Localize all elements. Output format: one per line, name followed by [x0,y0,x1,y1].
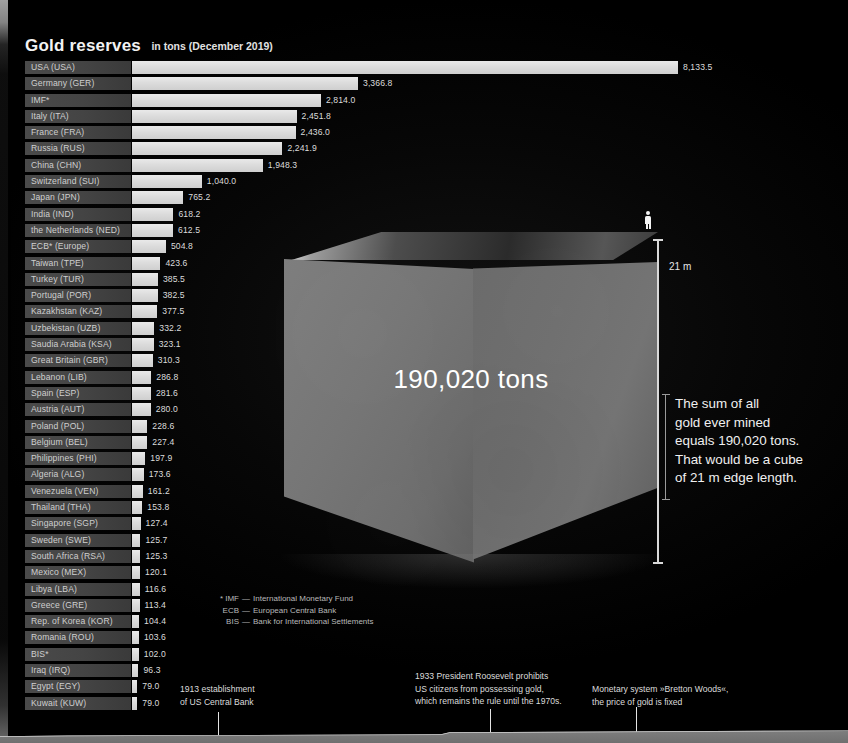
timeline-event-1-line-1: 1913 establishment [180,683,255,696]
bar-row-value: 153.8 [147,501,169,514]
bar-row-fill [132,94,321,107]
bar-row-label: Switzerland (SUI) [25,175,131,188]
bar-row: USA (USA)8,133.5 [25,61,725,74]
cube-right-face [473,262,658,589]
bar-row-label: ECB* (Europe) [25,240,131,253]
bar-row-fill [132,664,138,677]
abbreviation-dash: — [239,616,253,628]
bar-row-fill [132,387,151,400]
bar-row-label: Libya (LBA) [25,583,131,596]
bar-row-label: Lebanon (LIB) [25,371,131,384]
timeline-event-2-line-1: 1933 President Roosevelt prohibits [415,670,562,683]
statement-line-2: gold ever mined [675,414,841,433]
bar-row-value: 8,133.5 [683,61,712,74]
bar-row-fill [132,615,139,628]
bar-row-label: Italy (ITA) [25,110,131,123]
timeline-event-1-line-2: of US Central Bank [180,696,255,709]
bar-row-fill [132,354,153,367]
bar-row-value: 79.0 [142,680,159,693]
bar-row-fill [132,61,678,74]
bar-row-label: Belgium (BEL) [25,436,131,449]
bar-row-value: 3,366.8 [363,77,392,90]
cube-top-face [284,232,658,260]
cube-shadow [280,554,662,602]
bar-row-label: Great Britain (GBR) [25,354,131,367]
timeline-event-3-line-1: Monetary system »Bretton Woods«, [592,683,728,696]
bar-row-value: 423.6 [165,257,187,270]
bar-row-fill [132,403,151,416]
bar-row-fill [132,110,297,123]
person-leg-left [646,224,648,229]
bar-row-fill [132,224,173,237]
bar-row-fill [132,566,140,579]
bar-row: Russia (RUS)2,241.9 [25,142,725,155]
bar-row-label: Turkey (TUR) [25,273,131,286]
bar-row-fill [132,126,296,139]
statement-line-4: That would be a cube [675,451,841,470]
bar-row-label: Thailand (THA) [25,501,131,514]
bar-row-label: Egypt (EGY) [25,680,131,693]
bar-row-value: 323.1 [159,338,181,351]
bar-row-label: Sweden (SWE) [25,534,131,547]
bar-row-value: 120.1 [145,566,167,579]
bar-row-fill [132,273,158,286]
bar-row-fill [132,208,173,221]
bar-row-fill [132,159,263,172]
bar-row-fill [132,534,140,547]
bar-row-value: 104.4 [144,615,166,628]
bar-row-fill [132,175,202,188]
bar-row-value: 281.6 [156,387,178,400]
timeline-event-3-line-2: the price of gold is fixed [592,696,728,709]
statement-line-5: of 21 m edge length. [675,469,841,488]
bar-row-value: 173.6 [149,468,171,481]
bar-row-label: Algeria (ALG) [25,468,131,481]
bar-row-fill [132,452,145,465]
bar-row-fill [132,517,141,530]
bar-row-value: 127.4 [146,517,168,530]
bar-row-value: 197.9 [150,452,172,465]
bar-row-value: 618.2 [178,208,200,221]
bar-row-fill [132,583,140,596]
abbreviation-key: * IMF [205,593,239,605]
bar-row-fill [132,550,140,563]
statement-line-3: equals 190,020 tons. [675,432,841,451]
bar-row-fill [132,468,144,481]
statement-text: The sum of all gold ever mined equals 19… [675,395,841,488]
abbreviation-expansion: Bank for International Settlements [253,617,374,626]
bar-row-value: 377.5 [162,305,184,318]
person-icon [643,211,653,229]
bar-row-value: 765.2 [188,191,210,204]
bar-row-label: Uzbekistan (UZB) [25,322,131,335]
bar-row-value: 1,040.0 [207,175,236,188]
left-edge-strip [0,0,8,743]
bar-row-value: 612.5 [178,224,200,237]
bar-row-label: Austria (AUT) [25,403,131,416]
bar-row-value: 504.8 [171,240,193,253]
person-head [646,211,650,215]
bar-row-label: China (CHN) [25,159,131,172]
bar-row-label: IMF* [25,94,131,107]
chart-title: Gold reserves [25,36,141,56]
statement-line-1: The sum of all [675,395,841,414]
bar-row-fill [132,77,358,90]
bar-row-label: Iraq (IRQ) [25,664,131,677]
bar-row-label: Portugal (POR) [25,289,131,302]
bar-row: France (FRA)2,436.0 [25,126,725,139]
bar-row-fill [132,420,147,433]
timeline-event-2-line-3: which remains the rule until the 1970s. [415,695,562,708]
abbreviation-line: ECB—European Central Bank [205,605,374,617]
abbreviation-dash: — [239,605,253,617]
abbreviation-line: BIS—Bank for International Settlements [205,616,374,628]
abbreviation-key: BIS [205,616,239,628]
bar-row-fill [132,599,140,612]
bar-row-fill [132,680,137,693]
bar-row-fill [132,257,160,270]
bar-row-label: Greece (GRE) [25,599,131,612]
bar-row: Iraq (IRQ)96.3 [25,664,725,677]
bar-row-label: Kazakhstan (KAZ) [25,305,131,318]
bar-row-label: Germany (GER) [25,77,131,90]
abbreviation-expansion: European Central Bank [253,606,336,615]
abbreviation-dash: — [239,593,253,605]
bar-row-value: 2,436.0 [301,126,330,139]
bar-row-fill [132,289,158,302]
